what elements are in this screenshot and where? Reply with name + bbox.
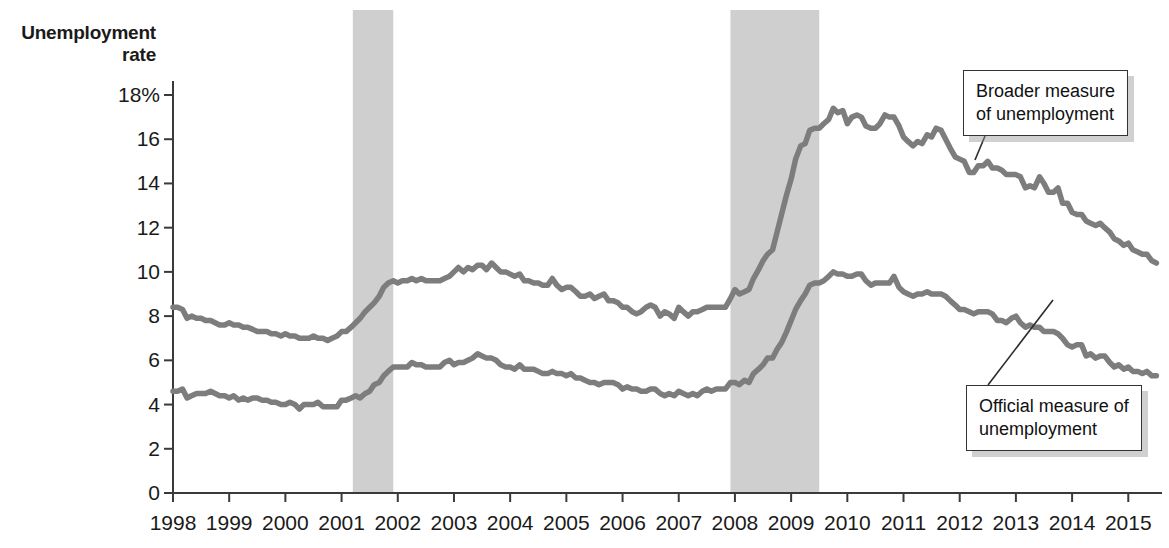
recession-band-1 — [730, 10, 819, 493]
unemployment-rate-chart: Unemployment rate 024681012141618% 19981… — [0, 0, 1169, 548]
callout-official-measure: Official measure of unemployment — [966, 385, 1142, 451]
y-tick-label-2: 2 — [60, 438, 160, 459]
y-tick-label-18%: 18% — [60, 84, 160, 105]
leader-line-official-measure — [988, 300, 1053, 385]
y-tick-label-0: 0 — [60, 482, 160, 503]
callout-broader-measure: Broader measure of unemployment — [963, 70, 1128, 136]
x-tick-label-2015: 2015 — [1088, 512, 1168, 533]
y-tick-label-10: 10 — [60, 261, 160, 282]
y-tick-label-16: 16 — [60, 128, 160, 149]
y-tick-label-14: 14 — [60, 172, 160, 193]
y-tick-label-12: 12 — [60, 217, 160, 238]
y-tick-label-6: 6 — [60, 349, 160, 370]
y-tick-label-8: 8 — [60, 305, 160, 326]
y-tick-label-4: 4 — [60, 394, 160, 415]
series-line-broader — [173, 108, 1156, 340]
recession-band-0 — [353, 10, 393, 493]
leader-line-broader-measure — [975, 136, 985, 160]
y-axis-title: Unemployment rate — [8, 22, 156, 66]
